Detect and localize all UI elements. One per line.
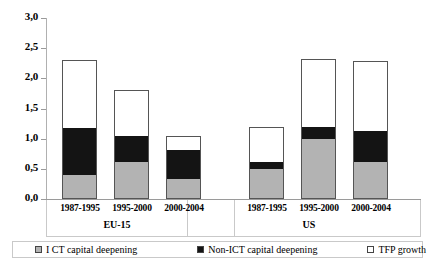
- legend-item-nonict: Non-ICT capital deepening: [197, 244, 317, 255]
- category-label-us-3: 2000-2004: [340, 203, 402, 213]
- bar-segment-ict: [249, 169, 284, 199]
- y-tick-mark: [41, 78, 46, 79]
- bar-us-2000-2004: [353, 61, 388, 199]
- bar-segment-ict: [114, 162, 149, 199]
- black-swatch-icon: [197, 246, 204, 253]
- group-label-eu15: EU-15: [57, 219, 177, 230]
- bar-us-1995-2000: [301, 59, 336, 199]
- y-tick-mark: [41, 109, 46, 110]
- bar-segment-nonict: [166, 150, 201, 180]
- legend-label-tfp: TFP growth: [378, 244, 426, 255]
- bar-segment-ict: [353, 162, 388, 199]
- bar-eu15-1995-2000: [114, 90, 149, 199]
- legend-item-ict: I CT capital deepening: [35, 244, 137, 255]
- bar-segment-nonict: [301, 127, 336, 139]
- bar-segment-tfp: [62, 60, 97, 128]
- y-tick-mark: [41, 48, 46, 49]
- bar-segment-tfp: [301, 59, 336, 127]
- bar-eu15-1987-1995: [62, 60, 97, 199]
- bar-segment-tfp: [114, 90, 149, 135]
- y-tick-label: 0,0: [25, 191, 38, 203]
- bar-segment-ict: [62, 175, 97, 199]
- y-tick-label: 3,0: [25, 10, 38, 22]
- y-axis-line: [46, 18, 47, 199]
- category-axis-band: 1987-1995 1995-2000 2000-2004 1987-1995 …: [46, 200, 421, 237]
- bar-segment-ict: [301, 139, 336, 199]
- category-label-eu15-3: 2000-2004: [153, 203, 215, 213]
- y-tick-label: 0,5: [25, 161, 38, 173]
- gray-swatch-icon: [35, 246, 42, 253]
- y-tick-label: 2,5: [25, 40, 38, 52]
- y-tick-mark: [41, 169, 46, 170]
- y-tick-label: 2,0: [25, 70, 38, 82]
- legend-label-ict: I CT capital deepening: [46, 244, 137, 255]
- group-label-us: US: [249, 219, 369, 230]
- y-tick-label: 1,5: [25, 101, 38, 113]
- bar-segment-nonict: [62, 128, 97, 175]
- bar-segment-nonict: [353, 131, 388, 162]
- bar-segment-nonict: [114, 136, 149, 162]
- bar-us-1987-1995: [249, 127, 284, 199]
- bar-segment-nonict: [249, 162, 284, 169]
- y-tick-mark: [41, 18, 46, 19]
- chart-figure: 3,0 2,5 2,0 1,5 1,0 0,5 0,0: [0, 0, 436, 269]
- group-separator: [234, 200, 235, 237]
- bar-segment-tfp: [166, 136, 201, 150]
- white-swatch-icon: [367, 246, 374, 253]
- plot-area: 3,0 2,5 2,0 1,5 1,0 0,5 0,0: [46, 18, 421, 199]
- y-tick-label: 1,0: [25, 131, 38, 143]
- bar-eu15-2000-2004: [166, 136, 201, 199]
- bar-segment-tfp: [249, 127, 284, 162]
- y-tick-mark: [41, 139, 46, 140]
- bar-segment-tfp: [353, 61, 388, 130]
- legend-label-nonict: Non-ICT capital deepening: [208, 244, 317, 255]
- legend-item-tfp: TFP growth: [367, 244, 426, 255]
- chart-legend: I CT capital deepening Non-ICT capital d…: [12, 241, 423, 258]
- bar-segment-ict: [166, 179, 201, 199]
